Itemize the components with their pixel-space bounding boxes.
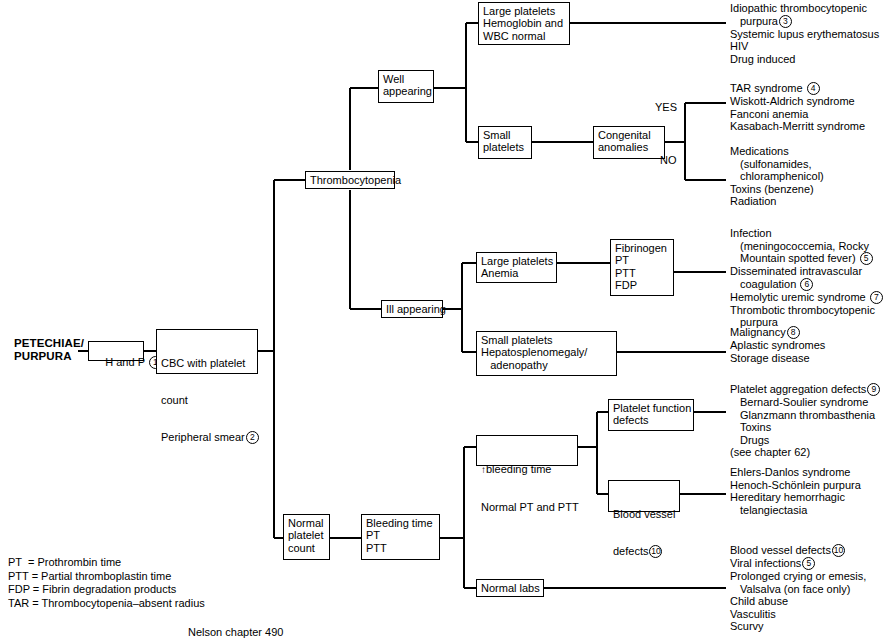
outcome-congenital-yes-group: TAR syndrome 4Wiskott-Aldrich syndromeFa…: [730, 82, 865, 133]
outcome-line: Mountain spotted fever) 5: [730, 252, 883, 265]
ref-number-9: 9: [867, 383, 880, 396]
ref-number-5: 5: [802, 557, 815, 570]
outcome-line: Storage disease: [730, 352, 825, 365]
outcome-line: Radiation: [730, 195, 824, 208]
outcome-line: Platelet aggregation defects9: [730, 383, 880, 396]
outcome-line: Aplastic syndromes: [730, 339, 825, 352]
source-citation: Nelson chapter 490: [188, 626, 283, 638]
root-label: PETECHIAE/ PURPURA: [14, 337, 84, 363]
outcome-line-text: Viral infections: [730, 557, 801, 569]
outcome-line: Viral infections5: [730, 557, 866, 570]
outcome-line: Idiopathic thrombocytopenic: [730, 2, 879, 15]
outcome-line: Systemic lupus erythematosus: [730, 28, 879, 41]
node-small-platelets-hepatosplenomegaly[interactable]: Small platelets Hepatosplenomegaly/ aden…: [476, 331, 617, 376]
node-increased-bleeding-time[interactable]: ↑bleeding time Normal PT and PTT: [476, 435, 578, 466]
outcome-line-text: Radiation: [730, 195, 776, 207]
outcome-line-text: Valsalva (on face only): [740, 583, 850, 595]
outcome-line-text: telangiectasia: [740, 504, 807, 516]
legend-line: PTT = Partial thromboplastin time: [8, 570, 205, 584]
node-platelet-function-defects[interactable]: Platelet function defects: [608, 399, 694, 431]
outcome-line: Wiskott-Aldrich syndrome: [730, 95, 865, 108]
outcome-line-text: (sulfonamides,: [740, 158, 812, 170]
outcome-line: HIV: [730, 40, 879, 53]
outcome-line-text: HIV: [730, 40, 748, 52]
outcome-line-text: Fanconi anemia: [730, 108, 808, 120]
outcome-malignancy-group: Malignancy8Aplastic syndromesStorage dis…: [730, 326, 825, 364]
outcome-line-text: Disseminated intravascular: [730, 265, 862, 277]
branch-label-no: NO: [660, 154, 677, 166]
node-ill-appearing[interactable]: Ill appearing: [381, 300, 443, 318]
outcome-line-text: chloramphenicol): [740, 170, 824, 182]
outcome-line-text: Scurvy: [730, 620, 764, 632]
node-normal-platelet-count[interactable]: Normal platelet count: [283, 514, 330, 560]
outcome-line: Ehlers-Danlos syndrome: [730, 466, 861, 479]
ref-number-6: 6: [800, 278, 813, 291]
outcome-normal-labs-group: Blood vessel defects10Viral infections5P…: [730, 544, 866, 633]
outcome-line-text: Mountain spotted fever): [740, 252, 859, 264]
node-h-and-p[interactable]: H and P 1: [88, 341, 144, 361]
ref-number-3: 3: [779, 15, 792, 28]
increased-bleeding-line-2: Normal PT and PTT: [481, 501, 573, 513]
outcome-line: Valsalva (on face only): [730, 583, 866, 596]
outcome-line-text: Glanzmann thrombasthenia: [740, 409, 875, 421]
outcome-line-text: Storage disease: [730, 352, 810, 364]
ref-number-10: 10: [832, 544, 845, 557]
node-small-platelets[interactable]: Small platelets: [478, 126, 532, 159]
outcome-line-text: Aplastic syndromes: [730, 339, 825, 351]
outcome-line: (sulfonamides,: [730, 158, 824, 171]
outcome-line-text: Toxins: [740, 421, 771, 433]
outcome-itp-group: Idiopathic thrombocytopenicpurpura3Syste…: [730, 2, 879, 65]
node-large-platelets-anemia[interactable]: Large platelets Anemia: [476, 252, 557, 283]
outcome-line: Child abuse: [730, 595, 866, 608]
outcome-line: Drug induced: [730, 53, 879, 66]
ref-number-8: 8: [787, 326, 800, 339]
outcome-line: Infection: [730, 227, 883, 240]
outcome-line-text: (see chapter 62): [730, 446, 810, 458]
outcome-line: Glanzmann thrombasthenia: [730, 409, 880, 422]
node-normal-labs[interactable]: Normal labs: [476, 579, 544, 597]
ref-number-7: 7: [870, 291, 883, 304]
outcome-line-text: Wiskott-Aldrich syndrome: [730, 95, 855, 107]
node-congenital-anomalies[interactable]: Congenital anomalies: [593, 126, 665, 159]
legend-line: TAR = Thrombocytopenia–absent radius: [8, 597, 205, 611]
outcome-line: Vasculitis: [730, 608, 866, 621]
ref-number-5: 5: [860, 252, 873, 265]
outcome-dic-group: Infection(meningococcemia, RockyMountain…: [730, 227, 883, 329]
outcome-line-text: TAR syndrome: [730, 82, 806, 94]
outcome-line-text: Kasabach-Merritt syndrome: [730, 120, 865, 132]
outcome-line-text: Malignancy: [730, 326, 786, 338]
ref-number-4: 4: [807, 82, 820, 95]
outcome-line-text: Child abuse: [730, 595, 788, 607]
outcome-line-text: Systemic lupus erythematosus: [730, 28, 879, 40]
legend-line: FDP = Fibrin degradation products: [8, 583, 205, 597]
outcome-line: Malignancy8: [730, 326, 825, 339]
outcome-line: Hemolytic uremic syndrome 7: [730, 291, 883, 304]
node-bleeding-time-pt-ptt[interactable]: Bleeding time PT PTT: [361, 514, 440, 560]
outcome-line: Bernard-Soulier syndrome: [730, 396, 880, 409]
outcome-line-text: coagulation: [740, 278, 799, 290]
node-well-appearing[interactable]: Well appearing: [378, 70, 434, 103]
outcome-line: Toxins (benzene): [730, 183, 824, 196]
outcome-line-text: Prolonged crying or emesis,: [730, 570, 866, 582]
node-large-platelets-hemoglobin[interactable]: Large platelets Hemoglobin and WBC norma…: [478, 2, 570, 45]
outcome-line: Kasabach-Merritt syndrome: [730, 120, 865, 133]
outcome-line-text: Infection: [730, 227, 772, 239]
outcome-platelet-aggregation-group: Platelet aggregation defects9Bernard-Sou…: [730, 383, 880, 459]
outcome-line-text: Drug induced: [730, 53, 795, 65]
node-fibrinogen-panel[interactable]: Fibrinogen PT PTT FDP: [610, 239, 674, 296]
node-cbc-platelet-count[interactable]: CBC with platelet count Peripheral smear…: [156, 329, 258, 374]
node-blood-vessel-defects[interactable]: Blood vessel defects10: [608, 480, 680, 512]
outcome-line-text: Platelet aggregation defects: [730, 383, 866, 395]
cbc-line-1: CBC with platelet: [161, 357, 253, 369]
outcome-line-text: purpura: [740, 15, 778, 27]
node-h-and-p-label: H and P: [105, 356, 148, 368]
node-thrombocytopenia[interactable]: Thrombocytopenia: [305, 171, 395, 189]
outcome-line-text: (meningococcemia, Rocky: [740, 240, 869, 252]
legend-line: PT = Prothrombin time: [8, 556, 205, 570]
outcome-line-text: Hereditary hemorrhagic: [730, 491, 845, 503]
outcome-line-text: Thrombotic thrombocytopenic: [730, 304, 875, 316]
outcome-line: TAR syndrome 4: [730, 82, 865, 95]
outcome-line-text: Idiopathic thrombocytopenic: [730, 2, 867, 14]
outcome-line: Drugs: [730, 434, 880, 447]
